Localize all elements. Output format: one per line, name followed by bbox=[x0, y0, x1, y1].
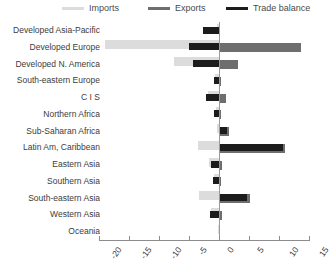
chart-row: Eastern Asia bbox=[0, 156, 320, 173]
legend-swatch-imports bbox=[62, 7, 84, 10]
chart-row: Oceania bbox=[0, 223, 320, 240]
chart-row: Developed N. America bbox=[0, 56, 320, 73]
bar-trade-balance bbox=[206, 94, 219, 101]
x-axis-tick-label: 5 bbox=[255, 245, 266, 255]
category-label: Latin Am, Caribbean bbox=[0, 139, 100, 156]
chart-legend: Imports Exports Trade balance bbox=[0, 0, 320, 16]
x-axis-tick bbox=[189, 236, 190, 241]
bar-trade-balance bbox=[219, 144, 283, 151]
category-label: Western Asia bbox=[0, 206, 100, 223]
category-label: C I S bbox=[0, 89, 100, 106]
x-axis-tick-label: 10 bbox=[287, 245, 301, 258]
zero-axis-line bbox=[219, 22, 220, 240]
legend-swatch-exports bbox=[148, 7, 170, 10]
chart-row: South-eastern Europe bbox=[0, 72, 320, 89]
bar-exports bbox=[219, 60, 238, 69]
bar-trade-balance bbox=[211, 161, 219, 168]
bar-trade-balance bbox=[189, 43, 219, 50]
bar-trade-balance bbox=[219, 194, 247, 201]
category-label: South-eastern Asia bbox=[0, 190, 100, 207]
bar-trade-balance bbox=[219, 127, 227, 134]
category-label: South-eastern Europe bbox=[0, 72, 100, 89]
chart-row: C I S bbox=[0, 89, 320, 106]
chart-row: Latin Am, Caribbean bbox=[0, 139, 320, 156]
x-axis-tick-label: -10 bbox=[168, 245, 183, 261]
bar-imports bbox=[198, 141, 219, 150]
x-axis-tick-label: 15 bbox=[317, 245, 331, 258]
category-label: Developed Europe bbox=[0, 39, 100, 56]
x-axis-tick bbox=[279, 236, 280, 241]
x-axis-tick bbox=[99, 236, 100, 241]
legend-item-exports: Exports bbox=[148, 0, 206, 16]
x-axis-tick-label: -20 bbox=[108, 245, 123, 261]
bar-exports bbox=[219, 94, 226, 103]
category-label: Developed N. America bbox=[0, 56, 100, 73]
bar-trade-balance bbox=[203, 27, 219, 34]
bar-exports bbox=[219, 43, 301, 52]
category-label: Northern Africa bbox=[0, 106, 100, 123]
category-label: Southern Asia bbox=[0, 173, 100, 190]
legend-label-exports: Exports bbox=[175, 4, 206, 13]
legend-item-trade-balance: Trade balance bbox=[226, 0, 310, 16]
legend-swatch-trade-balance bbox=[226, 7, 248, 10]
bar-imports bbox=[199, 191, 219, 200]
chart-row: Sub-Saharan Africa bbox=[0, 123, 320, 140]
x-axis-line bbox=[99, 240, 309, 241]
bar-trade-balance bbox=[193, 60, 219, 67]
category-label: Developed Asia-Pacific bbox=[0, 22, 100, 39]
chart-row: Developed Asia-Pacific bbox=[0, 22, 320, 39]
x-axis-tick bbox=[159, 236, 160, 241]
category-label: Eastern Asia bbox=[0, 156, 100, 173]
x-axis-tick bbox=[129, 236, 130, 241]
plot-area: Developed Asia-PacificDeveloped EuropeDe… bbox=[0, 22, 320, 240]
x-axis-tick bbox=[219, 236, 220, 241]
bar-trade-balance bbox=[210, 211, 219, 218]
x-axis-tick-label: -5 bbox=[196, 245, 209, 257]
category-label: Sub-Saharan Africa bbox=[0, 123, 100, 140]
chart-row: Northern Africa bbox=[0, 106, 320, 123]
x-axis-tick-label: -15 bbox=[138, 245, 153, 261]
x-axis-tick-label: 0 bbox=[225, 245, 236, 255]
legend-label-trade-balance: Trade balance bbox=[253, 4, 310, 13]
x-axis-tick bbox=[249, 236, 250, 241]
chart-row: Developed Europe bbox=[0, 39, 320, 56]
chart-row: Western Asia bbox=[0, 206, 320, 223]
chart-row: South-eastern Asia bbox=[0, 190, 320, 207]
legend-label-imports: Imports bbox=[89, 4, 119, 13]
x-axis-tick bbox=[309, 236, 310, 241]
legend-item-imports: Imports bbox=[62, 0, 119, 16]
category-label: Oceania bbox=[0, 223, 100, 240]
chart-row: Southern Asia bbox=[0, 173, 320, 190]
x-axis: -20-15-10-5051015 bbox=[0, 240, 320, 273]
